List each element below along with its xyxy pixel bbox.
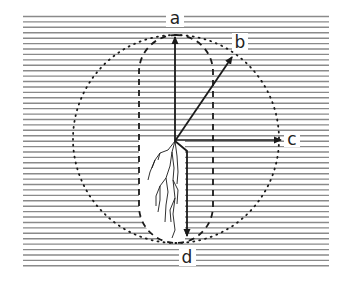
- label-d: d: [182, 247, 193, 267]
- diagram-canvas: a b c d: [0, 0, 348, 281]
- vector-diagram: a b c d: [0, 0, 348, 281]
- vector-b: [175, 57, 232, 141]
- label-c: c: [287, 129, 296, 149]
- label-b: b: [235, 32, 246, 52]
- label-a: a: [170, 8, 180, 28]
